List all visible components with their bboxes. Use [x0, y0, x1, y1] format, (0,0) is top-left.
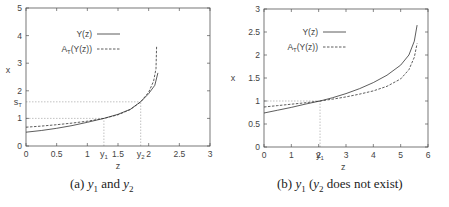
- chart-panel-b: 012345600.511.522.53y1zxY(z)AT(Y(z)): [225, 0, 449, 172]
- caption-a: (a) y1 and y2: [70, 176, 134, 194]
- series-at-y-of-z: [264, 44, 417, 108]
- y-tick-label: 1: [17, 113, 22, 123]
- y-tick-label: 1: [255, 96, 260, 106]
- plot-frame: [264, 9, 428, 147]
- x-axis-label: z: [341, 162, 346, 172]
- x-tick-label: 5: [398, 150, 403, 160]
- y-tick-label: 4: [17, 31, 22, 41]
- x-tick-label: 0: [24, 149, 29, 159]
- caption-a-prefix: (a): [70, 176, 84, 191]
- plot-frame: [26, 8, 210, 146]
- y-tick-label: 0: [255, 142, 260, 152]
- x-tick-label: 3: [344, 150, 349, 160]
- line-chart-a: 00.511.522.53012345y1y2sTzxY(z)AT(Y(z)): [0, 0, 225, 172]
- caption-b-rest: does not exist): [324, 176, 403, 191]
- x-marker-label: y1: [316, 150, 325, 161]
- y-tick-label: 3: [255, 4, 260, 14]
- y-tick-label: 2.5: [248, 27, 260, 37]
- x-tick-label: 6: [426, 150, 431, 160]
- caption-a-and: and: [98, 176, 123, 191]
- x-marker-label: y2: [137, 149, 146, 160]
- x-tick-label: 2: [146, 149, 151, 159]
- series-y-of-z: [26, 73, 158, 132]
- legend: Y(z)AT(Y(z)): [61, 29, 120, 55]
- legend-label: Y(z): [302, 27, 318, 37]
- x-marker-label: y1: [100, 149, 109, 160]
- y-tick-label: 2: [255, 50, 260, 60]
- series-at-y-of-z: [26, 47, 157, 128]
- y-tick-label: 1.5: [248, 73, 260, 83]
- guide-lines: [26, 102, 141, 146]
- y-axis-label: x: [6, 65, 11, 75]
- legend-label: Y(z): [76, 29, 92, 39]
- line-chart-b: 012345600.511.522.53y1zxY(z)AT(Y(z)): [225, 0, 449, 172]
- x-tick-label: 4: [371, 150, 376, 160]
- y-marker-label: sT: [14, 97, 23, 108]
- y-tick-label: 5: [17, 3, 22, 13]
- x-tick-label: 2.5: [173, 149, 185, 159]
- legend: Y(z)AT(Y(z)): [287, 27, 346, 53]
- y-tick-label: 0.5: [248, 119, 260, 129]
- x-tick-label: 0: [262, 150, 267, 160]
- y-tick-label: 2: [17, 86, 22, 96]
- chart-panel-a: 00.511.522.53012345y1y2sTzxY(z)AT(Y(z)): [0, 0, 225, 172]
- caption-a-sub2: 2: [129, 184, 134, 194]
- caption-b-prefix: (b): [277, 176, 292, 191]
- x-axis-label: z: [116, 161, 121, 171]
- series-y-of-z: [264, 25, 417, 113]
- x-tick-label: 1: [85, 149, 90, 159]
- y-tick-label: 0: [17, 141, 22, 151]
- caption-b: (b) y1 (y2 does not exist): [277, 176, 403, 194]
- x-tick-label: 3: [208, 149, 213, 159]
- legend-label: AT(Y(z)): [61, 44, 92, 55]
- legend-label: AT(Y(z)): [287, 42, 318, 53]
- x-tick-label: 1.5: [112, 149, 124, 159]
- x-tick-label: 1: [289, 150, 294, 160]
- y-axis-label: x: [231, 73, 236, 83]
- guide-lines: [264, 101, 320, 147]
- x-tick-label: 0.5: [51, 149, 63, 159]
- y-tick-label: 3: [17, 58, 22, 68]
